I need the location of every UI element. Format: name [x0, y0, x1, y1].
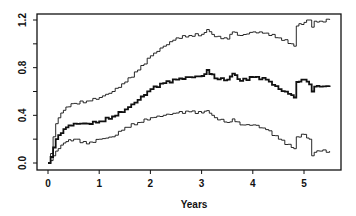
- x-tick-label: 1: [96, 178, 102, 189]
- x-tick-label: 5: [301, 178, 307, 189]
- y-tick-label: 1.2: [17, 13, 28, 27]
- x-tick-label: 4: [250, 178, 256, 189]
- y-tick-label: 0.0: [17, 156, 28, 170]
- x-tick-label: 0: [45, 178, 51, 189]
- chart: 0.00.40.81.2 012345 Years: [0, 0, 356, 216]
- y-tick-label: 0.8: [17, 60, 28, 74]
- x-tick-label: 2: [148, 178, 154, 189]
- x-axis-title: Years: [181, 199, 208, 210]
- x-tick-label: 3: [199, 178, 205, 189]
- y-tick-label: 0.4: [17, 108, 28, 122]
